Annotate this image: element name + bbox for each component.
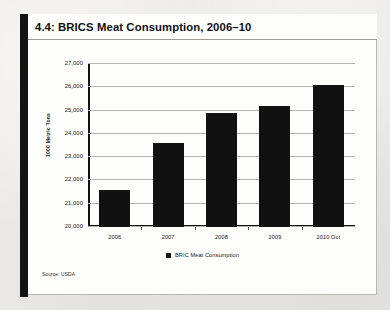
x-axis-tick	[248, 227, 249, 230]
chart-container: 1000 Metric Tons 20,00021,00022,00023,00…	[28, 40, 377, 295]
bar: 2009	[259, 106, 290, 227]
bar-slot: 2006	[88, 64, 141, 227]
page-title: 4.4: BRICS Meat Consumption, 2006–10	[35, 21, 251, 33]
plot-area: 20,00021,00022,00023,00024,00025,00026,0…	[88, 64, 355, 227]
bar: 2008	[206, 113, 237, 227]
y-axis-tick-label: 21,000	[65, 200, 83, 206]
x-axis-tick-label: 2010 Oct	[317, 234, 341, 240]
legend-label: BRIC Meat Consumption	[175, 252, 239, 258]
chart-legend: BRIC Meat Consumption	[28, 252, 377, 258]
figure-title-bar: 4.4: BRICS Meat Consumption, 2006–10	[28, 14, 377, 40]
y-axis-tick-label: 22,000	[65, 176, 83, 182]
bar-series: 20062007200820092010 Oct	[88, 64, 355, 227]
x-axis-tick-label: 2009	[268, 234, 281, 240]
y-axis-tick-label: 23,000	[65, 153, 83, 159]
x-axis-tick-label: 2007	[162, 234, 175, 240]
x-axis-tick	[302, 227, 303, 230]
y-axis-tick-label: 25,000	[65, 107, 83, 113]
y-axis-tick-label: 26,000	[65, 83, 83, 89]
y-axis-tick-label: 20,000	[65, 223, 83, 229]
x-axis-tick-label: 2008	[215, 234, 228, 240]
x-axis-tick-label: 2006	[108, 234, 121, 240]
page-background: 4.4: BRICS Meat Consumption, 2006–10 100…	[0, 0, 390, 310]
card-spine-accent	[20, 14, 28, 297]
x-axis-tick	[195, 227, 196, 230]
bar-slot: 2010 Oct	[302, 64, 355, 227]
y-axis-title: 1000 Metric Tons	[45, 95, 51, 175]
bar-slot: 2007	[141, 64, 194, 227]
bar: 2007	[153, 143, 184, 227]
y-axis-tick-label: 27,000	[65, 60, 83, 66]
bar-slot: 2008	[195, 64, 248, 227]
source-note: Source: USDA	[42, 272, 75, 277]
legend-swatch-icon	[166, 253, 171, 258]
x-axis-tick	[141, 227, 142, 230]
bar-slot: 2009	[248, 64, 301, 227]
bar: 2006	[99, 190, 130, 227]
bar: 2010 Oct	[313, 85, 344, 227]
y-axis-tick-label: 24,000	[65, 130, 83, 136]
